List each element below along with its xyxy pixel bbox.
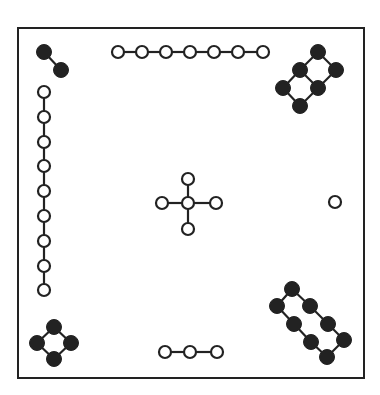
top-horizontal-chain bbox=[112, 46, 269, 58]
hollow-node-icon bbox=[184, 46, 196, 58]
hollow-node-icon bbox=[232, 46, 244, 58]
filled-node-icon bbox=[303, 299, 318, 314]
hollow-node-icon bbox=[38, 260, 50, 272]
hollow-node-icon bbox=[38, 86, 50, 98]
top-right-filled-ring bbox=[276, 45, 344, 114]
bottom-left-filled-diamond bbox=[30, 320, 79, 367]
filled-node-icon bbox=[54, 63, 69, 78]
hollow-node-icon bbox=[184, 346, 196, 358]
diagram-canvas bbox=[0, 0, 380, 395]
filled-node-icon bbox=[321, 317, 336, 332]
filled-node-icon bbox=[320, 350, 335, 365]
filled-node-icon bbox=[311, 81, 326, 96]
hollow-node-icon bbox=[159, 346, 171, 358]
hollow-node-icon bbox=[329, 196, 341, 208]
hollow-node-icon bbox=[136, 46, 148, 58]
filled-node-icon bbox=[37, 45, 52, 60]
hollow-node-icon bbox=[182, 197, 194, 209]
filled-node-icon bbox=[293, 63, 308, 78]
hollow-node-icon bbox=[182, 173, 194, 185]
top-left-filled-pair bbox=[37, 45, 69, 78]
hollow-node-icon bbox=[182, 223, 194, 235]
hollow-node-icon bbox=[38, 210, 50, 222]
bottom-right-filled-ladder bbox=[270, 282, 352, 365]
filled-node-icon bbox=[276, 81, 291, 96]
filled-node-icon bbox=[47, 352, 62, 367]
left-vertical-chain bbox=[38, 86, 50, 296]
hollow-node-icon bbox=[38, 284, 50, 296]
center-cross bbox=[156, 173, 222, 235]
hollow-node-icon bbox=[38, 136, 50, 148]
hollow-node-icon bbox=[156, 197, 168, 209]
filled-node-icon bbox=[285, 282, 300, 297]
filled-node-icon bbox=[287, 317, 302, 332]
bottom-horizontal-chain bbox=[159, 346, 223, 358]
node-groups bbox=[30, 45, 352, 367]
hollow-node-icon bbox=[38, 160, 50, 172]
hollow-node-icon bbox=[112, 46, 124, 58]
filled-node-icon bbox=[293, 99, 308, 114]
hollow-node-icon bbox=[208, 46, 220, 58]
filled-node-icon bbox=[30, 336, 45, 351]
hollow-node-icon bbox=[211, 346, 223, 358]
filled-node-icon bbox=[47, 320, 62, 335]
hollow-node-icon bbox=[210, 197, 222, 209]
filled-node-icon bbox=[337, 333, 352, 348]
hollow-node-icon bbox=[38, 235, 50, 247]
filled-node-icon bbox=[304, 335, 319, 350]
filled-node-icon bbox=[329, 63, 344, 78]
filled-node-icon bbox=[270, 299, 285, 314]
hollow-node-icon bbox=[38, 111, 50, 123]
filled-node-icon bbox=[64, 336, 79, 351]
hollow-node-icon bbox=[257, 46, 269, 58]
hollow-node-icon bbox=[38, 185, 50, 197]
right-single-node bbox=[329, 196, 341, 208]
filled-node-icon bbox=[311, 45, 326, 60]
hollow-node-icon bbox=[160, 46, 172, 58]
